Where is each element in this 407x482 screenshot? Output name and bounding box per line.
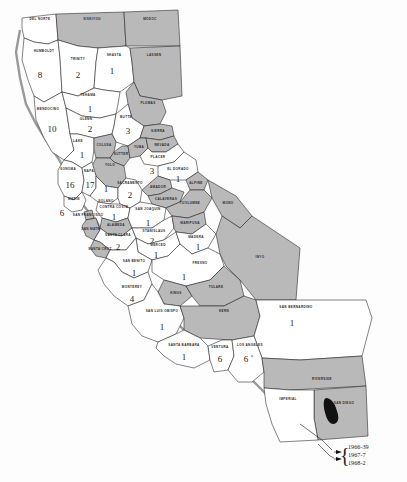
county-value-placer: 3: [150, 166, 155, 176]
county-label-el-dorado: EL DORADO: [167, 167, 189, 171]
county-label-riverside: RIVERSIDE: [312, 377, 332, 381]
county-label-imperial: SAN DIEGO: [334, 401, 355, 405]
county-label-los-angeles: LOS ANGELES: [237, 343, 263, 347]
county-label-napa: NAPA: [84, 169, 94, 173]
county-label-tulare: TULARE: [209, 285, 224, 289]
county-label-santa-clara: SANTA CLARA: [105, 233, 131, 237]
county-value-trinity: 2: [76, 70, 81, 80]
county-los-angeles[interactable]: LOS ANGELES 6 a: [228, 336, 264, 382]
county-value-contra-costa: 1: [112, 212, 117, 222]
county-value-mendocino: 10: [48, 124, 58, 134]
county-label-alpine: ALPINE: [189, 181, 202, 185]
county-label-kern: KERN: [219, 309, 230, 313]
county-label-santa-cruz: SANTA CRUZ: [88, 247, 111, 251]
county-label-butte: BUTTE: [120, 115, 132, 119]
county-trinity[interactable]: TRINITY 2: [58, 40, 98, 96]
county-value-ventura: 6: [218, 354, 223, 364]
county-value-lake: 1: [80, 150, 85, 160]
county-value-fresno: 1: [182, 272, 187, 282]
county-label-modoc: MODOC: [143, 17, 157, 21]
county-value-shasta: 1: [110, 66, 115, 76]
county-label-glenn: GLENN: [80, 117, 93, 121]
county-label-amador: AMADOR: [150, 185, 166, 189]
county-region-north: DEL NORTE SISKIYOU MODOC HUMBOLDT 8: [22, 10, 182, 102]
county-value-humboldt: 8: [38, 70, 43, 80]
county-riverside[interactable]: RIVERSIDE: [262, 356, 366, 390]
county-label-mono: MONO: [222, 201, 233, 205]
county-label-ventura: VENTURA: [211, 345, 229, 349]
county-label-alameda: ALAMEDA: [107, 223, 125, 227]
map-svg: DEL NORTE SISKIYOU MODOC HUMBOLDT 8: [0, 0, 407, 482]
county-label-san-francisco: SAN FRANCISCO: [73, 213, 104, 217]
county-humboldt[interactable]: HUMBOLDT 8: [22, 38, 62, 102]
county-label-sierra: SIERRA: [151, 129, 165, 133]
county-label-kings: KINGS: [170, 291, 182, 295]
county-label-yolo: YOLO: [105, 163, 115, 167]
county-label-mendocino: MENDOCINO: [37, 107, 60, 111]
county-value-marin: 6: [60, 208, 65, 218]
california-county-map: DEL NORTE SISKIYOU MODOC HUMBOLDT 8: [0, 0, 407, 482]
county-shasta[interactable]: SHASTA 1: [94, 46, 134, 92]
county-value-madera: 1: [196, 242, 201, 252]
county-label-plumas: PLUMAS: [140, 101, 155, 105]
county-label-tehama: TEHAMA: [80, 93, 96, 97]
county-label-san-diego: IMPERIAL: [279, 397, 297, 401]
county-label-merced: MERCED: [150, 243, 166, 247]
county-label-trinity: TRINITY: [71, 57, 86, 61]
county-imperial[interactable]: SAN DIEGO: [314, 386, 368, 440]
county-label-monterey: MONTEREY: [122, 285, 143, 289]
legend-entry-1966: 1966-39: [348, 443, 369, 450]
county-label-inyo: INYO: [256, 255, 265, 259]
county-label-san-joaquin: SAN JOAQUIN: [135, 207, 161, 211]
county-label-mariposa: MARIPOSA: [180, 221, 200, 225]
county-label-colusa: COLUSA: [96, 143, 112, 147]
county-value-santa-barbara: 1: [182, 352, 187, 362]
county-san-bernardino[interactable]: SAN BERNARDINO 1: [254, 300, 372, 360]
county-value-los-angeles: 6: [244, 354, 249, 364]
county-label-sutter: SUTTER: [114, 152, 129, 156]
county-value-san-bernardino: 1: [290, 318, 295, 328]
county-label-contra-costa: CONTRA COSTA: [100, 205, 129, 209]
county-label-lassen: LASSEN: [147, 53, 162, 57]
county-label-placer: PLACER: [151, 155, 166, 159]
county-value-solano: 1: [104, 184, 109, 194]
county-mono[interactable]: MONO: [208, 180, 252, 228]
county-label-shasta: SHASTA: [107, 53, 122, 57]
county-label-madera: MADERA: [188, 235, 204, 239]
county-value-napa: 17: [86, 180, 96, 190]
legend-entry-1967: 1967-7: [348, 451, 366, 458]
county-label-del-norte: DEL NORTE: [30, 17, 51, 21]
county-label-santa-barbara: SANTA BARBARA: [168, 343, 200, 347]
county-label-sacramento: SACRAMENTO: [117, 181, 143, 185]
county-value-superscript-los-angeles: a: [251, 353, 253, 358]
county-label-humboldt: HUMBOLDT: [34, 49, 55, 53]
county-value-san-luis-obispo: 1: [160, 322, 165, 332]
county-value-sonoma: 16: [66, 180, 76, 190]
county-value-glenn: 2: [88, 124, 93, 134]
county-label-sonoma: SONOMA: [60, 167, 76, 171]
county-label-nevada: NEVADA: [155, 143, 170, 147]
county-label-tuolumne: TUOLUMNE: [180, 201, 200, 205]
county-label-san-luis-obispo: SAN LUIS OBISPO: [146, 309, 179, 313]
county-value-el-dorado: 1: [176, 174, 181, 184]
county-value-monterey: 4: [130, 294, 135, 304]
county-value-san-joaquin: 1: [146, 218, 151, 228]
county-value-san-benito: 1: [132, 268, 137, 278]
county-label-calaveras: CALAVERAS: [155, 197, 177, 201]
county-value-sacramento: 2: [128, 190, 133, 200]
legend-entry-1968: 1968-2: [348, 459, 366, 466]
county-label-marin: MARIN: [68, 197, 80, 201]
county-value-butte: 3: [126, 126, 131, 136]
county-modoc[interactable]: MODOC: [124, 10, 180, 46]
county-label-yuba: YUBA: [134, 145, 145, 149]
county-label-siskiyou: SISKIYOU: [83, 17, 101, 21]
county-label-fresno: FRESNO: [193, 261, 208, 265]
legend-box: { 1966-39 1967-7 1968-2: [340, 443, 369, 466]
county-value-tehama: 1: [88, 104, 93, 114]
county-san-diego[interactable]: IMPERIAL: [264, 388, 318, 442]
county-label-san-bernardino: SAN BERNARDINO: [279, 305, 313, 309]
county-label-lake: LAKE: [73, 139, 83, 143]
county-label-stanislaus: STANISLAUS: [142, 229, 165, 233]
county-label-san-benito: SAN BENITO: [123, 259, 146, 263]
